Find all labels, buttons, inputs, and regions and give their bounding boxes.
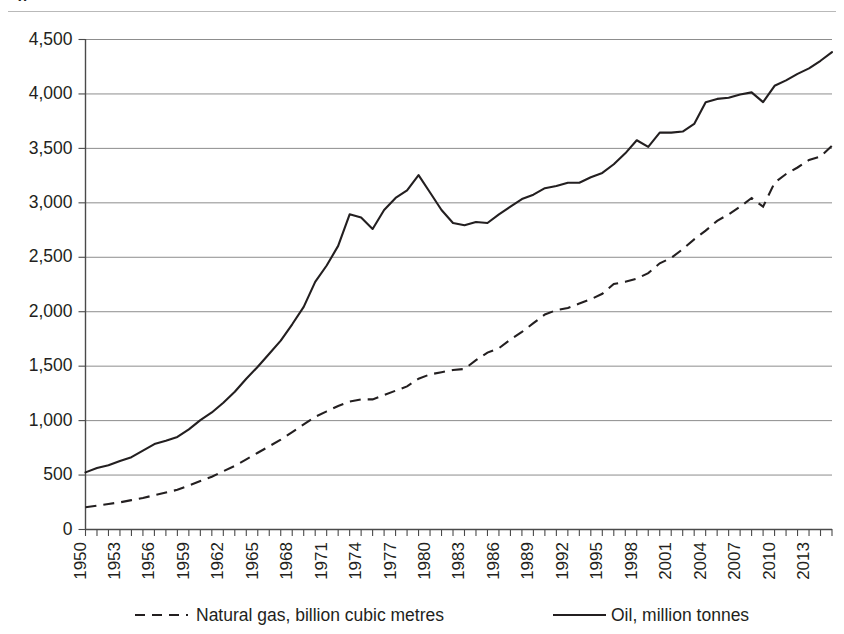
y-tick-label: 500 xyxy=(43,464,72,484)
y-tick-label: 0 xyxy=(63,519,73,539)
y-tick-label: 2,500 xyxy=(29,246,73,266)
x-tick-label: 1968 xyxy=(277,542,296,580)
x-tick-label: 1998 xyxy=(622,542,641,580)
y-tick-label: 1,500 xyxy=(29,355,73,375)
y-tick-label: 1,000 xyxy=(29,410,73,430)
x-tick-label: 1950 xyxy=(71,542,90,580)
series-line-oil xyxy=(86,52,833,472)
line-chart-svg: 05001,0001,5002,0002,5003,0003,5004,0004… xyxy=(0,0,844,634)
y-tick-label: 3,000 xyxy=(29,192,73,212)
x-tick-label: 1977 xyxy=(381,542,400,580)
x-tick-label: 1989 xyxy=(518,542,537,580)
x-tick-label: 1965 xyxy=(243,542,262,580)
y-tick-label: 4,500 xyxy=(29,29,73,49)
series-line-natural-gas xyxy=(86,146,833,508)
x-tick-label: 1959 xyxy=(174,542,193,580)
legend-label-natural-gas: Natural gas, billion cubic metres xyxy=(196,605,444,625)
x-tick-label: 2004 xyxy=(691,542,710,580)
y-tick-label: 4,000 xyxy=(29,83,73,103)
x-tick-label: 2013 xyxy=(794,542,813,580)
x-tick-label: 1992 xyxy=(553,542,572,580)
legend: Natural gas, billion cubic metres Oil, m… xyxy=(135,605,749,625)
x-tick-label: 2010 xyxy=(760,542,779,580)
x-tick-label: 2001 xyxy=(656,542,675,580)
chart-figure: g 05001,0001,5002,0002,5003,0003,5004,00… xyxy=(0,0,844,634)
x-tick-label: 1983 xyxy=(449,542,468,580)
x-tick-label: 1962 xyxy=(208,542,227,580)
x-tick-label: 1971 xyxy=(312,542,331,580)
x-tick-label: 1953 xyxy=(105,542,124,580)
x-tick-group: 1950195319561959196219651968197119741977… xyxy=(71,529,833,580)
legend-label-oil: Oil, million tonnes xyxy=(611,605,749,625)
x-tick-label: 1995 xyxy=(587,542,606,580)
y-tick-group: 05001,0001,5002,0002,5003,0003,5004,0004… xyxy=(29,29,86,539)
x-tick-label: 2007 xyxy=(725,542,744,580)
y-tick-label: 2,000 xyxy=(29,301,73,321)
y-tick-label: 3,500 xyxy=(29,138,73,158)
x-tick-label: 1956 xyxy=(139,542,158,580)
x-tick-label: 1986 xyxy=(484,542,503,580)
x-tick-label: 1980 xyxy=(415,542,434,580)
gridline-group xyxy=(86,40,833,476)
x-tick-label: 1974 xyxy=(346,542,365,580)
